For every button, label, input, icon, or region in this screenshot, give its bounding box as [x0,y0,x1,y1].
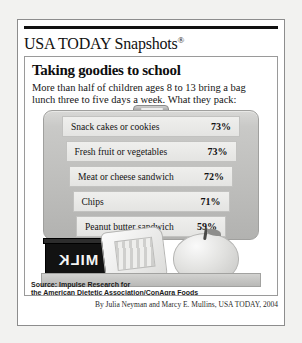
milk-carton-label: MILK [56,249,100,271]
chart-row-label: Snack cakes or cookies [63,122,211,132]
logo-rule [24,26,278,29]
logo-text: USA TODAY Snapshots [24,35,178,52]
chart-row: Chips71% [73,191,230,212]
usa-today-snapshots-logo: USA TODAY Snapshots® [24,30,280,50]
page-title: Taking goodies to school [32,62,272,79]
chart-row-value: 71% [201,196,229,207]
chart-row-value: 73% [208,146,236,157]
chart-row: Snack cakes or cookies73% [62,116,240,137]
chart-row-label: Meat or cheese sandwich [70,172,204,182]
chart-row-label: Chips [74,197,201,207]
milk-carton-icon: MILK [45,241,107,277]
chart-row: Meat or cheese sandwich72% [69,166,233,187]
source-note: Source: Impulse Research for the America… [31,281,231,296]
source-line-2: the American Dietetic Association/ConAgr… [31,289,231,296]
registered-mark-icon: ® [178,35,185,45]
chart-row-value: 73% [211,121,239,132]
chart-row-label: Fresh fruit or vegetables [67,147,208,157]
content-panel: Taking goodies to school More than half … [24,56,278,296]
byline: By Julia Neyman and Marcy E. Mullins, US… [24,300,278,310]
apple-leaf-icon [207,229,221,236]
chart-row-value: 72% [204,171,232,182]
chart-row: Fresh fruit or vegetables73% [66,141,237,162]
deck-line-2: lunch three to five days a week. What th… [32,94,274,106]
deck-text: More than half of children ages 8 to 13 … [32,82,274,105]
lunchbox-illustration: Snack cakes or cookies73%Fresh fruit or … [25,105,277,296]
source-line-1: Source: Impulse Research for [31,281,231,289]
snapshot-page: USA TODAY Snapshots® Taking goodies to s… [0,0,302,343]
deck-line-1: More than half of children ages 8 to 13 … [32,82,274,94]
